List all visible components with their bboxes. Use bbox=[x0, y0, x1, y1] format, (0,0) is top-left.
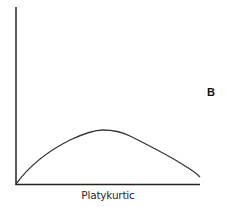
x-axis-label: Platykurtic bbox=[60, 189, 156, 201]
platykurtic-curve bbox=[16, 130, 200, 184]
panel-label: B bbox=[207, 86, 215, 98]
distribution-diagram bbox=[0, 0, 236, 207]
